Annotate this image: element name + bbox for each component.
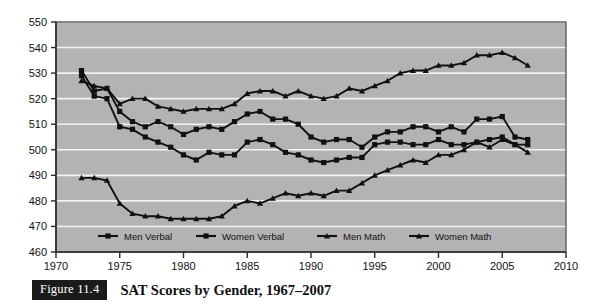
data-point-square xyxy=(168,124,173,129)
x-axis-tick-label: 2000 xyxy=(426,260,450,272)
data-point-square xyxy=(270,117,275,122)
data-point-square xyxy=(117,109,122,114)
data-point-square xyxy=(168,145,173,150)
data-point-square xyxy=(296,152,301,157)
data-point-square xyxy=(512,134,517,139)
data-point-square xyxy=(525,137,530,142)
legend-label: Men Verbal xyxy=(124,231,172,242)
data-point-square xyxy=(308,134,313,139)
data-point-square xyxy=(194,157,199,162)
data-point-square xyxy=(334,137,339,142)
y-axis-tick-label: 510 xyxy=(29,118,47,130)
x-axis-tick-label: 1970 xyxy=(44,260,68,272)
data-point-square xyxy=(423,124,428,129)
data-point-square xyxy=(130,119,135,124)
x-axis-tick-label: 2010 xyxy=(554,260,578,272)
data-point-square xyxy=(474,117,479,122)
chart-area: 4604704804905005105205305405501970197519… xyxy=(0,0,592,272)
y-axis-tick-label: 470 xyxy=(29,220,47,232)
y-axis-tick-label: 460 xyxy=(29,246,47,258)
data-point-square xyxy=(155,119,160,124)
data-point-square xyxy=(308,157,313,162)
data-point-square xyxy=(155,140,160,145)
data-point-square xyxy=(194,127,199,132)
data-point-square xyxy=(525,142,530,147)
x-axis-tick-label: 1985 xyxy=(235,260,259,272)
data-point-square xyxy=(410,124,415,129)
data-point-square xyxy=(436,137,441,142)
data-point-square xyxy=(385,129,390,134)
data-point-square xyxy=(143,124,148,129)
x-axis-tick-label: 1995 xyxy=(363,260,387,272)
y-axis-tick-label: 500 xyxy=(29,144,47,156)
data-point-square xyxy=(449,124,454,129)
data-point-square xyxy=(219,127,224,132)
data-point-square xyxy=(321,140,326,145)
data-point-square xyxy=(487,117,492,122)
y-axis-tick-label: 550 xyxy=(29,16,47,28)
sat-scores-line-chart: 4604704804905005105205305405501970197519… xyxy=(0,0,592,272)
data-point-square xyxy=(372,134,377,139)
data-point-square xyxy=(449,142,454,147)
y-axis-tick-label: 520 xyxy=(29,93,47,105)
data-point-square xyxy=(79,68,84,73)
data-point-square xyxy=(461,129,466,134)
data-point-square xyxy=(283,117,288,122)
data-point-square xyxy=(245,111,250,116)
data-point-square xyxy=(347,137,352,142)
data-point-square xyxy=(105,233,110,238)
data-point-square xyxy=(130,127,135,132)
x-axis-tick-label: 2005 xyxy=(490,260,514,272)
data-point-square xyxy=(410,142,415,147)
y-axis-tick-label: 530 xyxy=(29,67,47,79)
data-point-square xyxy=(334,157,339,162)
data-point-square xyxy=(296,122,301,127)
y-axis-tick-label: 480 xyxy=(29,195,47,207)
x-axis-tick-label: 1980 xyxy=(171,260,195,272)
data-point-square xyxy=(206,150,211,155)
legend-label: Women Math xyxy=(435,231,491,242)
data-point-square xyxy=(461,142,466,147)
data-point-square xyxy=(232,152,237,157)
data-point-square xyxy=(321,160,326,165)
data-point-square xyxy=(398,129,403,134)
data-point-square xyxy=(423,142,428,147)
data-point-square xyxy=(283,150,288,155)
data-point-square xyxy=(436,129,441,134)
data-point-square xyxy=(257,137,262,142)
data-point-square xyxy=(143,134,148,139)
data-point-square xyxy=(270,142,275,147)
data-point-square xyxy=(232,119,237,124)
y-axis-tick-label: 540 xyxy=(29,42,47,54)
legend-label: Women Verbal xyxy=(222,231,284,242)
data-point-square xyxy=(203,233,208,238)
data-point-square xyxy=(219,152,224,157)
data-point-square xyxy=(117,124,122,129)
data-point-square xyxy=(398,140,403,145)
figure-caption-text: SAT Scores by Gender, 1967–2007 xyxy=(120,282,331,299)
data-point-square xyxy=(500,114,505,119)
data-point-square xyxy=(104,96,109,101)
data-point-square xyxy=(372,142,377,147)
data-point-square xyxy=(359,155,364,160)
data-point-square xyxy=(245,140,250,145)
data-point-square xyxy=(257,109,262,114)
data-point-square xyxy=(92,94,97,99)
legend-label: Men Math xyxy=(343,231,385,242)
figure-caption: Figure 11.4 SAT Scores by Gender, 1967–2… xyxy=(0,275,592,305)
figure-container: 4604704804905005105205305405501970197519… xyxy=(0,0,592,305)
data-point-square xyxy=(385,140,390,145)
data-point-square xyxy=(487,137,492,142)
data-point-square xyxy=(347,155,352,160)
x-axis-tick-label: 1990 xyxy=(299,260,323,272)
data-point-square xyxy=(181,152,186,157)
data-point-square xyxy=(181,132,186,137)
data-point-square xyxy=(79,73,84,78)
data-point-square xyxy=(359,145,364,150)
x-axis-tick-label: 1975 xyxy=(108,260,132,272)
figure-number-tag: Figure 11.4 xyxy=(32,280,107,300)
y-axis-tick-label: 490 xyxy=(29,169,47,181)
data-point-square xyxy=(206,124,211,129)
